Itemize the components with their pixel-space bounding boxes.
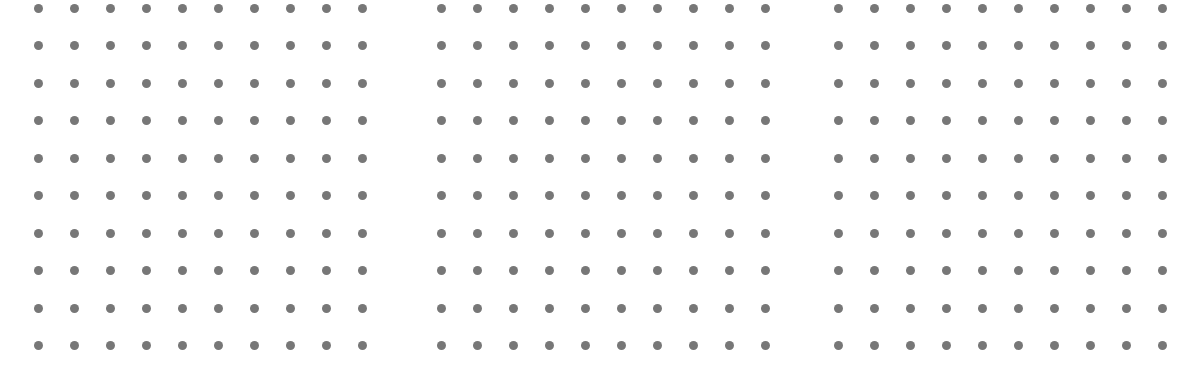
dot-grid-canvas [0, 0, 1204, 375]
dot [1014, 154, 1023, 163]
dot [906, 79, 915, 88]
dot [1014, 41, 1023, 50]
dot [1086, 266, 1095, 275]
dot [1086, 79, 1095, 88]
dot [1122, 116, 1131, 125]
dot [870, 116, 879, 125]
dot [834, 41, 843, 50]
dot [1158, 229, 1167, 238]
dot [870, 341, 879, 350]
dot [1014, 191, 1023, 200]
dot [942, 116, 951, 125]
dot [942, 304, 951, 313]
dot [1158, 266, 1167, 275]
dot [1158, 154, 1167, 163]
dot [834, 266, 843, 275]
dot [834, 79, 843, 88]
dot [978, 304, 987, 313]
dot [906, 191, 915, 200]
dot [1014, 116, 1023, 125]
dot [834, 304, 843, 313]
dot [834, 341, 843, 350]
dot [1050, 229, 1059, 238]
dot [834, 116, 843, 125]
dot [1122, 229, 1131, 238]
dot [906, 266, 915, 275]
dot [906, 341, 915, 350]
dot [834, 4, 843, 13]
dot [906, 4, 915, 13]
dot [942, 341, 951, 350]
dot [1050, 304, 1059, 313]
dot [906, 41, 915, 50]
dot [1122, 304, 1131, 313]
dot [1086, 154, 1095, 163]
dot [1014, 229, 1023, 238]
dot [1086, 229, 1095, 238]
dot [1158, 341, 1167, 350]
dot [1158, 4, 1167, 13]
dot [942, 154, 951, 163]
dot [906, 116, 915, 125]
dot [978, 4, 987, 13]
dot [1158, 79, 1167, 88]
dot [870, 191, 879, 200]
dot [1158, 116, 1167, 125]
dot [942, 4, 951, 13]
dot [1050, 191, 1059, 200]
dot [870, 266, 879, 275]
dot [1086, 41, 1095, 50]
dot [1158, 191, 1167, 200]
dot [1086, 191, 1095, 200]
dot [978, 79, 987, 88]
dot [870, 41, 879, 50]
dot [906, 154, 915, 163]
right-dot-grid [0, 0, 1204, 375]
dot [1122, 4, 1131, 13]
dot [978, 266, 987, 275]
dot [1122, 266, 1131, 275]
dot [1086, 116, 1095, 125]
dot [942, 79, 951, 88]
dot [978, 341, 987, 350]
dot [1122, 341, 1131, 350]
dot [834, 229, 843, 238]
dot [1014, 266, 1023, 275]
dot [978, 154, 987, 163]
dot [978, 41, 987, 50]
dot [942, 41, 951, 50]
dot [1050, 41, 1059, 50]
dot [942, 191, 951, 200]
dot [1014, 341, 1023, 350]
dot [1122, 41, 1131, 50]
dot [978, 229, 987, 238]
dot [1086, 341, 1095, 350]
dot [870, 229, 879, 238]
dot [978, 191, 987, 200]
dot [1122, 191, 1131, 200]
dot [834, 154, 843, 163]
dot [1122, 79, 1131, 88]
dot [870, 4, 879, 13]
dot [1050, 116, 1059, 125]
dot [1050, 79, 1059, 88]
dot [1050, 4, 1059, 13]
dot [942, 229, 951, 238]
dot [1050, 341, 1059, 350]
dot [870, 154, 879, 163]
dot [1086, 4, 1095, 13]
dot [906, 229, 915, 238]
dot [942, 266, 951, 275]
dot [834, 191, 843, 200]
dot [1086, 304, 1095, 313]
dot [1050, 266, 1059, 275]
dot [870, 304, 879, 313]
dot [1050, 154, 1059, 163]
dot [1014, 79, 1023, 88]
dot [906, 304, 915, 313]
dot [978, 116, 987, 125]
dot [1158, 41, 1167, 50]
dot [1158, 304, 1167, 313]
dot [1014, 304, 1023, 313]
dot [1014, 4, 1023, 13]
